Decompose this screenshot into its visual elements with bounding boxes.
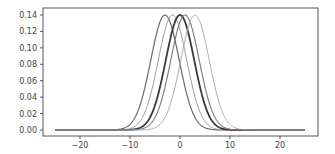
- y-tick-label: 0.12: [19, 27, 37, 36]
- y-tick-label: 0.14: [19, 11, 37, 20]
- y-axis: 0.000.020.040.060.080.100.120.14: [19, 11, 43, 135]
- series-line-1: [55, 15, 305, 130]
- x-tick-label: −10: [122, 141, 139, 150]
- series-line-0: [55, 15, 305, 130]
- plot-frame: [43, 8, 318, 136]
- y-tick-label: 0.00: [19, 126, 37, 135]
- y-tick-label: 0.04: [19, 93, 37, 102]
- y-tick-label: 0.08: [19, 60, 37, 69]
- series-line-3: [55, 15, 305, 130]
- y-tick-label: 0.02: [19, 110, 37, 119]
- series-line-4: [55, 15, 305, 130]
- x-tick-label: −20: [72, 141, 89, 150]
- series-line-2: [55, 15, 305, 130]
- x-tick-label: 0: [177, 141, 182, 150]
- x-tick-label: 10: [225, 141, 235, 150]
- x-tick-label: 20: [275, 141, 285, 150]
- line-chart: 0.000.020.040.060.080.100.120.14 −20−100…: [0, 0, 335, 154]
- y-tick-label: 0.06: [19, 77, 37, 86]
- gaussian-curves: [55, 15, 305, 130]
- y-tick-label: 0.10: [19, 44, 37, 53]
- x-axis: −20−1001020: [72, 136, 286, 150]
